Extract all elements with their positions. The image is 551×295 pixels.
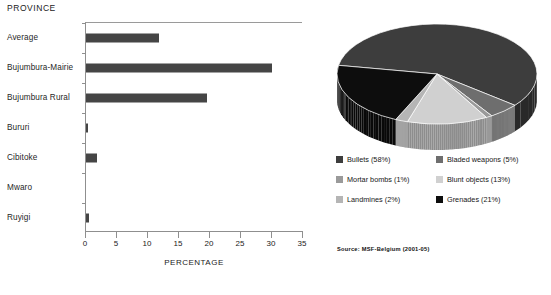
legend-label-bullets: Bullets (58%) [347,155,390,164]
pie-slice-wall [500,113,501,139]
legend-item-grenades: Grenades (21%) [436,195,544,204]
pie-slice-wall [474,120,476,146]
pie-slice-wall [515,102,520,132]
x-axis-tick-label: 35 [298,239,307,248]
x-axis-tick [240,232,241,238]
bar-chart-panel: PROVINCE Average Bujumbura-Mairie Bujumb… [0,0,320,295]
pie-slice-wall [503,111,504,137]
bar-row [86,83,302,113]
pie-slice-wall [504,111,505,137]
bar-category-label: Ruyigi [0,202,82,232]
pie-slice-wall [509,108,510,134]
pie-slice-wall [464,122,466,148]
pie-slice-wall [407,122,409,148]
x-axis-tick-label: 25 [236,239,245,248]
pie-3d-svg [330,12,545,152]
bar-bururi [86,124,88,133]
pie-slice-wall [458,123,460,149]
y-axis-tick [82,113,86,114]
pie-slice-wall [481,118,483,144]
pie-slice-wall [506,110,507,136]
pie-chart-panel: Bullets (58%) Bladed weapons (5%) Mortar… [320,0,551,295]
pie-slice-wall [472,121,474,147]
legend-swatch-blunt-objects [436,176,443,183]
pie-slice-wall [508,109,509,135]
pie-slice-wall [409,122,411,148]
bar-plot-area [85,22,302,232]
pie-slice-wall [431,124,433,150]
pie-slice-wall [425,124,427,150]
x-axis-tick-label: 0 [83,239,87,248]
legend-item-bullets: Bullets (58%) [336,155,436,164]
pie-slice-wall [485,117,487,143]
pie-slice-wall [347,96,348,123]
pie-slice-wall [475,120,477,146]
pie-slice-wall [502,112,503,138]
x-axis-tick [116,232,117,238]
legend-label-bladed-weapons: Bladed weapons (5%) [447,155,518,164]
legend-label-mortar-bombs: Mortar bombs (1%) [347,175,409,184]
x-axis-tick [85,232,86,238]
pie-slice-wall [470,121,472,147]
pie-slice-wall [364,108,366,135]
legend-item-landmines: Landmines (2%) [336,195,436,204]
y-axis-tick [82,83,86,84]
pie-slice-wall [509,109,510,135]
pie-slice-wall [352,100,354,127]
x-axis-tick-labels: 05101520253035 [85,239,303,251]
pie-slice-wall [450,123,452,149]
pie-slice-wall [387,117,390,144]
bar-row [86,143,302,173]
pie-slice-wall [341,88,342,116]
x-axis-tick [209,232,210,238]
y-axis-tick [82,203,86,204]
x-axis-tick [178,232,179,238]
pie-slice-wall [508,109,509,135]
pie-slice-wall [342,90,343,118]
pie-slice-wall [448,124,450,150]
x-axis-ticks [85,232,303,239]
pie-slice-wall [506,110,507,136]
pie-slice-wall [520,98,525,128]
pie-chart-graphic [330,12,545,152]
pie-slice-wall [532,85,534,115]
pie-slice-wall [498,113,499,139]
pie-slice-wall [346,94,347,121]
x-axis-tick-label: 30 [267,239,276,248]
pie-slice-wall [381,116,384,143]
pie-slice-wall [419,123,421,149]
pie-slice-wall [525,94,529,124]
bar-category-labels: Average Bujumbura-Mairie Bujumbura Rural… [0,22,82,232]
pie-slice-wall [497,114,498,140]
bar-row [86,203,302,233]
bar-average [86,34,159,43]
pie-slice-wall [357,104,359,131]
pie-slice-wall [359,106,361,133]
province-axis-title: PROVINCE [7,3,56,13]
bar-series [86,23,302,232]
pie-slice-wall [460,122,462,148]
legend-item-blunt-objects: Blunt objects (13%) [436,175,544,184]
bar-category-label: Bururi [0,112,82,142]
pie-slice-wall [393,119,396,146]
pie-slice-wall [384,116,387,143]
source-note: Source: MSF-Belgium (2001-05) [337,246,430,252]
pie-slice-wall [511,107,512,133]
pie-slice-wall [456,123,458,149]
bar-row [86,173,302,203]
pie-slice-wall [379,115,382,142]
pie-slice-wall [423,124,425,150]
bar-row [86,23,302,53]
pie-slice-wall [415,123,417,149]
pie-slice-wall [468,121,470,147]
pie-slice-wall [462,122,464,148]
pie-slice-wall [512,107,513,133]
x-axis-title: PERCENTAGE [85,258,303,267]
pie-slice-wall [494,115,495,141]
pie-slice-wall [483,118,485,144]
y-axis-tick [82,173,86,174]
pie-slice-wall [444,124,446,150]
pie-slice-wall [339,85,340,113]
pie-slice-wall [344,93,345,121]
pie-slice-wall [501,112,502,138]
